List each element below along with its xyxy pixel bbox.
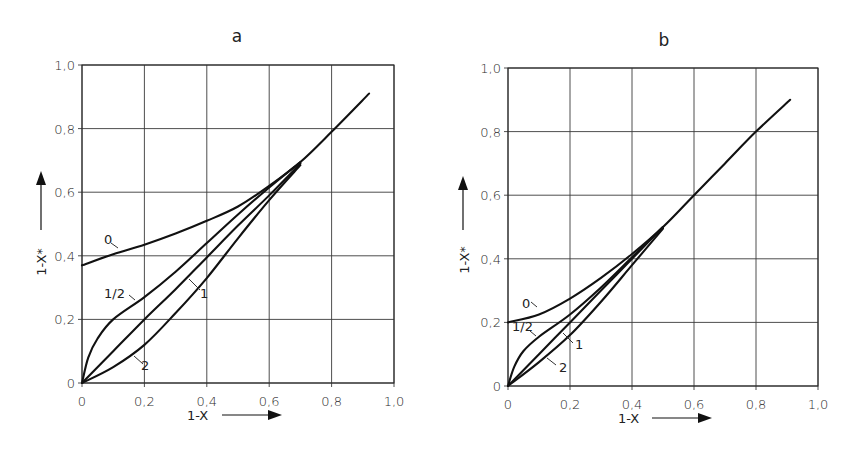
y-tick-label: 0,4 xyxy=(480,252,501,267)
curve-label: 0 xyxy=(104,232,112,247)
curve-label: 1/2 xyxy=(104,286,125,301)
y-axis-label-b: 1-X* xyxy=(457,176,472,274)
y-tick-label: 0,2 xyxy=(480,315,501,330)
curve-label: 2 xyxy=(559,360,567,375)
y-arrowhead-icon xyxy=(458,176,468,190)
x-tick-label: 0,6 xyxy=(259,394,280,409)
label-leader-line xyxy=(531,302,537,307)
y-tick-label: 0,8 xyxy=(54,122,75,137)
y-arrowhead-icon xyxy=(36,171,46,185)
x-axis-label-text-a: 1-X xyxy=(187,408,208,423)
curve-label: 0 xyxy=(522,296,530,311)
chart-panel-a: a 01/212 000,20,20,40,40,60,60,80,81,01,… xyxy=(34,26,404,423)
y-tick-label: 0,6 xyxy=(54,185,75,200)
curve-0 xyxy=(508,100,790,323)
curve-1 xyxy=(508,227,663,386)
curve-label: 1 xyxy=(200,286,208,301)
y-tick-label: 0,2 xyxy=(54,312,75,327)
curves-a: 01/212 xyxy=(82,94,369,383)
y-tick-label: 0,4 xyxy=(54,249,75,264)
curve-label: 1/2 xyxy=(512,319,533,334)
y-tick-label: 0,6 xyxy=(480,188,501,203)
curve-label: 1 xyxy=(575,337,583,352)
panel-title-b: b xyxy=(659,30,670,50)
x-axis-label-text-b: 1-X xyxy=(618,411,639,426)
label-leader-line xyxy=(189,279,200,290)
y-tick-label: 0 xyxy=(493,379,501,394)
y-tick-label: 0 xyxy=(67,376,75,391)
y-tick-label: 0,8 xyxy=(480,125,501,140)
x-tick-label: 0,4 xyxy=(622,397,643,412)
panel-title-a: a xyxy=(232,26,242,46)
label-leader-line xyxy=(547,358,556,365)
label-leader-line xyxy=(129,295,135,300)
x-tick-label: 1,0 xyxy=(808,397,829,412)
y-tick-label: 1,0 xyxy=(480,61,501,76)
x-tick-label: 1,0 xyxy=(384,394,405,409)
x-tick-label: 0 xyxy=(78,394,86,409)
x-tick-label: 0,8 xyxy=(321,394,342,409)
x-arrowhead-icon xyxy=(698,413,712,423)
y-tick-label: 1,0 xyxy=(54,58,75,73)
x-tick-label: 0,6 xyxy=(684,397,705,412)
curves-b: 01/212 xyxy=(508,100,790,386)
figure: a 01/212 000,20,20,40,40,60,60,80,81,01,… xyxy=(0,0,853,456)
x-axis-label-b: 1-X xyxy=(618,411,712,426)
y-axis-label-text-a: 1-X* xyxy=(34,248,49,276)
curve-1 xyxy=(82,164,300,383)
x-arrowhead-icon xyxy=(268,410,282,420)
x-tick-label: 0,2 xyxy=(560,397,581,412)
x-tick-label: 0 xyxy=(504,397,512,412)
x-axis-label-a: 1-X xyxy=(187,408,282,423)
y-axis-label-a: 1-X* xyxy=(34,171,49,276)
chart-panel-b: b 01/212 000,20,20,40,40,60,60,80,81,01,… xyxy=(457,30,828,426)
x-tick-label: 0,8 xyxy=(746,397,767,412)
x-tick-label: 0,4 xyxy=(196,394,217,409)
x-tick-label: 0,2 xyxy=(134,394,155,409)
y-axis-label-text-b: 1-X* xyxy=(457,246,472,274)
curve-label: 2 xyxy=(141,358,149,373)
